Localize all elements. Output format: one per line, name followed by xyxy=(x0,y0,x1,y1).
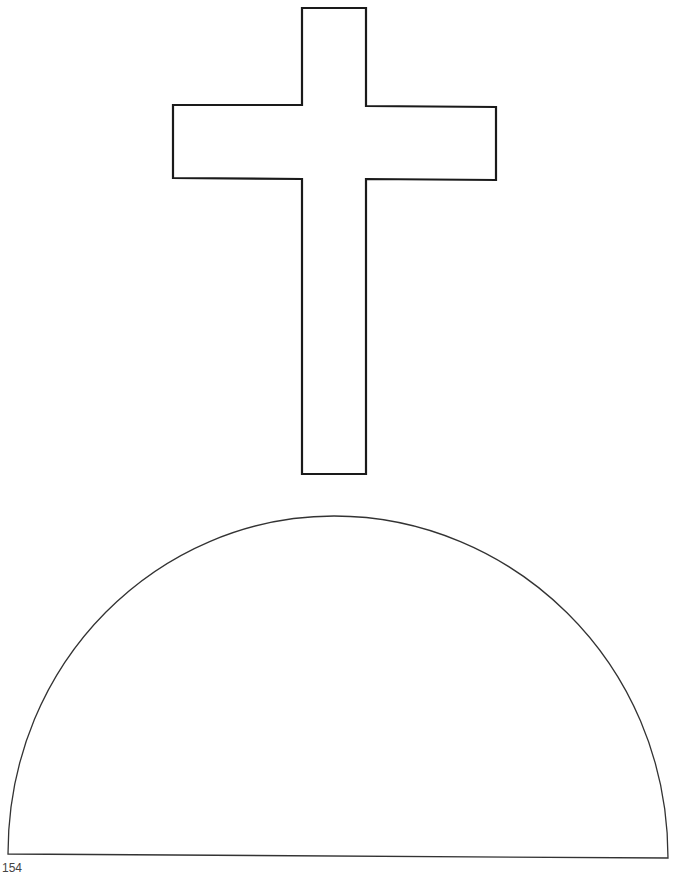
page-number: 154 xyxy=(2,861,22,875)
cross-outline xyxy=(173,8,496,474)
coloring-page-artwork xyxy=(0,0,673,877)
hill-outline xyxy=(8,516,668,858)
